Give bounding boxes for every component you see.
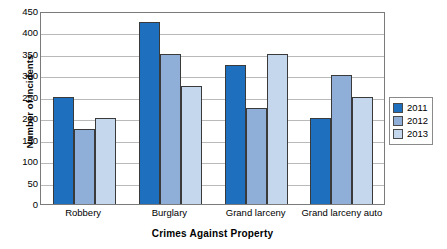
y-axis-tick-label: 50 bbox=[14, 179, 38, 189]
x-axis-title: Crimes Against Property bbox=[40, 228, 385, 239]
bar bbox=[181, 86, 202, 204]
legend-item: 2011 bbox=[393, 102, 428, 114]
y-axis-tick-label: 150 bbox=[14, 136, 38, 146]
bar bbox=[352, 97, 373, 204]
bar bbox=[95, 118, 116, 204]
y-axis-tick-label: 450 bbox=[14, 7, 38, 17]
x-axis-tick-label: Grand larceny bbox=[213, 207, 299, 223]
bar bbox=[331, 75, 352, 204]
y-axis-tick-label: 400 bbox=[14, 29, 38, 39]
bar-chart: Number of Incidents 05010015020025030035… bbox=[0, 0, 447, 249]
y-axis-tick-labels: 050100150200250300350400450 bbox=[14, 12, 38, 205]
y-axis-tick-label: 350 bbox=[14, 50, 38, 60]
legend-item: 2013 bbox=[393, 128, 428, 140]
y-axis-tick-label: 300 bbox=[14, 72, 38, 82]
legend-label: 2012 bbox=[407, 116, 428, 126]
y-axis-tick-label: 100 bbox=[14, 157, 38, 167]
y-axis-tick-label: 200 bbox=[14, 114, 38, 124]
x-axis-tick-label: Grand larceny auto bbox=[299, 207, 385, 223]
legend-label: 2011 bbox=[407, 103, 427, 113]
legend-swatch-icon bbox=[393, 116, 403, 126]
bar bbox=[225, 65, 246, 204]
bar bbox=[53, 97, 74, 204]
legend-label: 2013 bbox=[407, 129, 428, 139]
plot-area bbox=[40, 12, 385, 205]
y-axis-tick-label: 0 bbox=[14, 200, 38, 210]
bar-group bbox=[127, 13, 213, 204]
y-axis-tick-label: 250 bbox=[14, 93, 38, 103]
legend: 201120122013 bbox=[389, 97, 433, 145]
legend-item: 2012 bbox=[393, 115, 428, 127]
bar-group bbox=[213, 13, 299, 204]
legend-swatch-icon bbox=[393, 103, 403, 113]
bar bbox=[246, 108, 267, 205]
bar bbox=[74, 129, 95, 204]
bar bbox=[267, 54, 288, 204]
bar-group bbox=[298, 13, 384, 204]
x-axis-tick-label: Robbery bbox=[40, 207, 126, 223]
x-axis-tick-label: Burglary bbox=[126, 207, 212, 223]
bar-groups bbox=[41, 13, 384, 204]
bar-group bbox=[41, 13, 127, 204]
bar bbox=[160, 54, 181, 204]
legend-swatch-icon bbox=[393, 129, 403, 139]
bar bbox=[310, 118, 331, 204]
bar bbox=[139, 22, 160, 204]
x-axis-tick-labels: RobberyBurglaryGrand larcenyGrand larcen… bbox=[40, 207, 385, 223]
